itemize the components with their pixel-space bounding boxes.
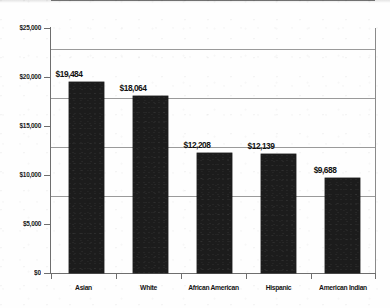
x-tick-label-american-indian: American Indian [310, 283, 377, 292]
x-tick-label-white: White [117, 283, 181, 292]
y-tick-mark [44, 126, 51, 127]
y-tick-mark [44, 224, 51, 225]
x-tick-mark [246, 273, 247, 279]
x-tick-label-asian: Asian [52, 283, 116, 292]
x-tick-mark [116, 273, 117, 279]
bar-chart: $25,000 $20,000 $15,000 $10,000 $5,000 $… [0, 0, 390, 308]
bar-white [133, 96, 168, 273]
y-tick-label-5000: $5,000 [23, 219, 41, 228]
value-label-african-american: $12,208 [171, 139, 224, 150]
y-tick-mark [44, 175, 51, 176]
value-label-white: $18,064 [107, 82, 160, 93]
x-tick-label-african-american: African American [182, 283, 246, 292]
gridline-25000 [51, 0, 375, 1]
bar-african-american [197, 153, 232, 273]
y-tick-mark [44, 28, 51, 29]
y-tick-label-0: $0 [34, 268, 41, 277]
y-tick-label-25000: $25,000 [19, 23, 41, 32]
x-tick-mark [51, 273, 52, 279]
value-label-asian: $19,484 [43, 68, 96, 79]
y-tick-label-20000: $20,000 [19, 72, 41, 81]
value-label-hispanic: $12,139 [235, 140, 288, 151]
bar-american-indian [325, 178, 360, 273]
plot-frame-right [375, 28, 376, 274]
x-tick-mark [181, 273, 182, 279]
value-label-american-indian: $9,688 [299, 164, 352, 175]
bar-asian [69, 82, 104, 273]
y-tick-label-10000: $10,000 [19, 170, 41, 179]
y-tick-mark [44, 273, 51, 274]
x-axis-line [50, 273, 376, 274]
x-tick-label-hispanic: Hispanic [247, 283, 311, 292]
plot-area [51, 28, 375, 273]
x-tick-mark [375, 273, 376, 279]
bar-hispanic [261, 154, 296, 273]
y-tick-label-15000: $15,000 [19, 121, 41, 130]
x-tick-mark [311, 273, 312, 279]
